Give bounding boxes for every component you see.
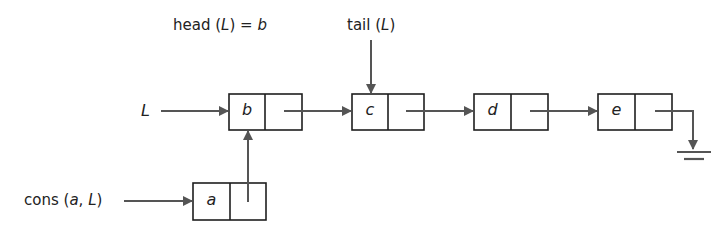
list-pointer-label: L [141,101,150,120]
linked-list-diagram: b c d e a head (L) = b tail (L) L cons (… [0,0,727,238]
null-ground-icon [677,152,711,159]
node-d-value: d [474,100,511,119]
node-e-value: e [598,100,635,119]
tail-label: tail (L) [347,16,395,34]
head-label: head (L) = b [173,16,267,34]
diagram-graphics [0,0,727,238]
node-c-value: c [352,100,388,119]
node-a-value: a [193,190,230,209]
cons-label: cons (a, L) [24,191,102,209]
node-b-value: b [229,100,265,119]
